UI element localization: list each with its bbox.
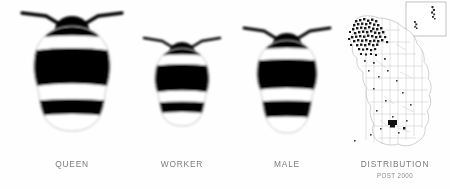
panel-distribution: DISTRIBUTION POST 2000 — [340, 0, 450, 189]
panel-male: MALE — [222, 0, 352, 189]
panel-distribution-subcaption: POST 2000 — [347, 170, 444, 181]
male-bee-svg — [222, 0, 352, 152]
queen-body — [22, 26, 122, 140]
panel-queen-caption: QUEEN — [10, 158, 133, 169]
uk-distribution-map-svg — [340, 0, 450, 155]
uk-distribution-map — [340, 0, 450, 155]
worker-tail-band — [144, 112, 220, 134]
male-bee-illustration — [222, 0, 352, 152]
panel-male-caption: MALE — [230, 158, 344, 169]
map-inset-northern-isles — [406, 2, 446, 36]
queen-tail-band — [22, 114, 122, 140]
worker-body — [144, 48, 220, 134]
male-tail-band — [244, 117, 330, 143]
bumblebee-species-figure: QUEEN — [0, 0, 450, 189]
male-body — [244, 40, 330, 142]
panel-distribution-caption: DISTRIBUTION — [347, 158, 444, 169]
